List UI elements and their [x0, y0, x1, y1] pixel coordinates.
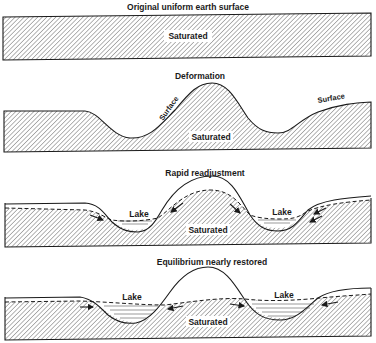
surface-label-right: Surface	[317, 91, 346, 105]
saturated-label: Saturated	[188, 225, 227, 235]
panel-equilibrium: Equilibrium nearly restored Lake Lak	[5, 257, 371, 340]
groundwater-readjustment-diagram: Original uniform earth surface Saturated…	[0, 0, 376, 343]
saturated-label: Saturated	[191, 132, 230, 142]
deformed-block	[4, 83, 371, 152]
panel-deformation: Deformation Surface Surface Saturated	[4, 71, 371, 152]
lake-label-left: Lake	[129, 209, 149, 219]
panel-rapid-readjustment: Rapid readjustment Lake Lake Saturated	[5, 168, 371, 247]
panel-title: Deformation	[175, 71, 225, 81]
panel-original-surface: Original uniform earth surface Saturated	[3, 2, 371, 60]
panel-title: Equilibrium nearly restored	[157, 257, 268, 267]
saturated-label: Saturated	[168, 31, 207, 41]
lake-label-left: Lake	[122, 292, 142, 302]
panel-title: Original uniform earth surface	[127, 2, 249, 12]
lake-label-right: Lake	[274, 290, 294, 300]
saturated-label: Saturated	[188, 317, 227, 327]
lake-label-right: Lake	[272, 207, 292, 217]
